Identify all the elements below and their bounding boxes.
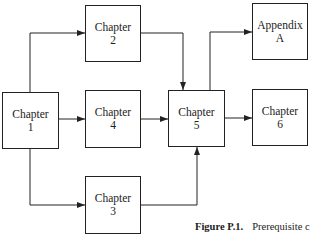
node-label-line1: Chapter	[262, 105, 298, 118]
node-chapter-2: Chapter 2	[85, 5, 141, 62]
edge-ch1-to-ch2	[30, 33, 85, 92]
node-label-line1: Chapter	[95, 192, 131, 205]
node-label-line1: Chapter	[95, 21, 131, 34]
prerequisite-diagram: Chapter 1 Chapter 2 Chapter 3 Chapter 4 …	[0, 0, 315, 237]
node-label-line1: Chapter	[95, 106, 131, 119]
node-chapter-4: Chapter 4	[85, 90, 141, 148]
figure-caption-label: Figure P.1.	[195, 221, 243, 232]
node-appendix-a: Appendix A	[252, 3, 308, 60]
edge-ch3-to-ch5	[141, 147, 197, 205]
figure-caption-text: Prerequisite c	[252, 221, 309, 232]
node-label-line2: 3	[110, 205, 116, 218]
node-label-line1: Chapter	[178, 106, 214, 119]
node-label-line2: 6	[277, 118, 283, 131]
node-chapter-3: Chapter 3	[85, 176, 141, 234]
figure-caption: Figure P.1.Prerequisite c	[195, 221, 310, 232]
node-label-line2: 1	[28, 121, 34, 134]
edge-ch2-to-ch5	[141, 33, 183, 90]
node-label-line1: Chapter	[12, 108, 48, 121]
node-chapter-6: Chapter 6	[252, 89, 308, 146]
node-chapter-1: Chapter 1	[2, 92, 59, 149]
node-label-line2: 5	[194, 119, 200, 132]
node-label-line2: 4	[110, 119, 116, 132]
node-label-line2: A	[276, 32, 284, 45]
node-label-line2: 2	[110, 34, 116, 47]
edge-ch5-to-appA	[210, 32, 252, 90]
node-label-line1: Appendix	[257, 19, 302, 32]
edge-ch1-to-ch3	[30, 149, 85, 205]
node-chapter-5: Chapter 5	[168, 90, 225, 147]
